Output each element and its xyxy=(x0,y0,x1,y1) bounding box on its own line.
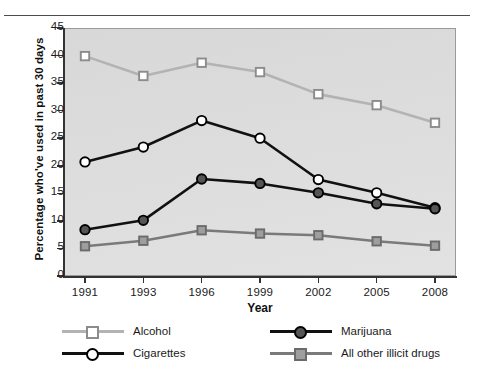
data-point-alcohol xyxy=(81,52,89,60)
legend-item-all-other-illicit-drugs[interactable]: All other illicit drugs xyxy=(270,344,440,362)
data-point-alcohol xyxy=(197,59,205,67)
x-axis-tick-label: 2008 xyxy=(410,286,460,298)
data-point-all-other-illicit-drugs xyxy=(139,237,147,245)
data-point-all-other-illicit-drugs xyxy=(197,226,205,234)
data-point-marijuana xyxy=(430,204,439,213)
legend-label: Cigarettes xyxy=(124,347,185,359)
legend-marker-circle-icon xyxy=(294,326,307,339)
legend-marker-square-icon xyxy=(86,326,99,339)
x-axis-tick-label: 1993 xyxy=(118,286,168,298)
legend-label: Alcohol xyxy=(124,325,171,337)
data-point-all-other-illicit-drugs xyxy=(256,229,264,237)
data-point-alcohol xyxy=(314,90,322,98)
x-axis-tick-label: 2005 xyxy=(352,286,402,298)
x-axis-tick xyxy=(143,277,145,283)
header-rule xyxy=(4,15,470,16)
data-point-cigarettes xyxy=(197,116,206,125)
legend-swatch-icon xyxy=(270,324,332,338)
data-point-marijuana xyxy=(372,199,381,208)
plot-series-canvas xyxy=(64,28,456,276)
y-axis-ticks: 051015202530354045 xyxy=(0,0,64,374)
data-point-alcohol xyxy=(431,119,439,127)
x-axis-tick xyxy=(84,277,86,283)
legend-item-cigarettes[interactable]: Cigarettes xyxy=(62,344,185,362)
x-axis-title: Year xyxy=(64,301,456,315)
x-axis-tick-label: 1999 xyxy=(235,286,285,298)
data-point-all-other-illicit-drugs xyxy=(81,242,89,250)
chart-legend: AlcoholMarijuanaCigarettesAll other illi… xyxy=(62,322,462,366)
data-point-cigarettes xyxy=(80,157,89,166)
x-axis-tick xyxy=(201,277,203,283)
legend-item-marijuana[interactable]: Marijuana xyxy=(270,322,392,340)
legend-swatch-icon xyxy=(62,324,124,338)
legend-swatch-icon xyxy=(62,346,124,360)
legend-marker-circle-icon xyxy=(86,348,99,361)
x-axis-tick xyxy=(318,277,320,283)
data-point-marijuana xyxy=(314,188,323,197)
data-point-marijuana xyxy=(255,179,264,188)
data-point-cigarettes xyxy=(255,134,264,143)
legend-item-alcohol[interactable]: Alcohol xyxy=(62,322,171,340)
data-point-alcohol xyxy=(372,101,380,109)
x-axis-tick xyxy=(376,277,378,283)
legend-label: Marijuana xyxy=(332,325,392,337)
x-axis-tick-label: 1991 xyxy=(60,286,110,298)
data-point-cigarettes xyxy=(372,188,381,197)
x-axis-tick xyxy=(434,277,436,283)
data-point-all-other-illicit-drugs xyxy=(431,241,439,249)
data-point-marijuana xyxy=(139,216,148,225)
data-point-alcohol xyxy=(139,72,147,80)
data-point-marijuana xyxy=(80,225,89,234)
data-point-all-other-illicit-drugs xyxy=(314,231,322,239)
x-axis-tick-label: 2002 xyxy=(293,286,343,298)
legend-swatch-icon xyxy=(270,346,332,360)
data-point-cigarettes xyxy=(314,175,323,184)
chart-figure: 051015202530354045 199119931996199920022… xyxy=(0,0,478,374)
data-point-cigarettes xyxy=(139,142,148,151)
y-axis-title: Percentage who've used in past 30 days xyxy=(33,24,45,274)
legend-marker-square-icon xyxy=(294,348,307,361)
x-axis-tick xyxy=(259,277,261,283)
series-line-alcohol xyxy=(85,56,435,123)
data-point-alcohol xyxy=(256,68,264,76)
data-point-all-other-illicit-drugs xyxy=(372,237,380,245)
x-axis-tick-label: 1996 xyxy=(177,286,227,298)
data-point-marijuana xyxy=(197,174,206,183)
legend-label: All other illicit drugs xyxy=(332,347,440,359)
